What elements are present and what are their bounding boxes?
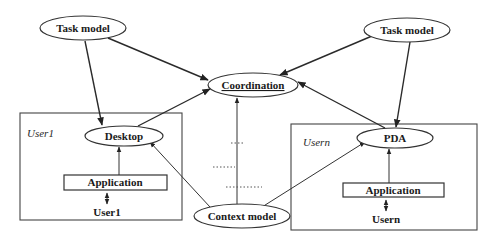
edge-taskright-pda — [396, 42, 410, 127]
coordination-node: Coordination — [208, 73, 298, 97]
task-model-left-label: Task model — [56, 22, 110, 34]
user1-label: User1 — [93, 206, 121, 218]
coordination-label: Coordination — [222, 79, 285, 91]
task-model-left-node: Task model — [40, 16, 126, 40]
context-model-node: Context model — [194, 204, 290, 228]
desktop-node: Desktop — [85, 126, 163, 146]
architecture-diagram: User1 Usern Task model Task model Coordi… — [0, 0, 496, 241]
application-right-label: Application — [365, 184, 420, 196]
context-model-label: Context model — [208, 210, 277, 222]
edge-taskright-coordination — [280, 36, 372, 75]
usern-label: Usern — [372, 213, 400, 225]
desktop-label: Desktop — [105, 130, 144, 142]
edge-pda-coordination — [298, 82, 385, 128]
usern-group-label: Usern — [303, 136, 330, 148]
edge-taskleft-coordination — [108, 38, 208, 80]
task-model-right-label: Task model — [380, 24, 434, 36]
edge-desktop-coordination — [138, 89, 210, 126]
edge-taskleft-desktop — [85, 41, 102, 125]
user1-group-label: User1 — [27, 127, 54, 139]
application-left-label: Application — [87, 176, 142, 188]
application-right-node: Application — [343, 183, 444, 197]
pda-node: PDA — [357, 128, 433, 148]
task-model-right-node: Task model — [364, 18, 450, 42]
application-left-node: Application — [64, 175, 167, 190]
pda-label: PDA — [384, 132, 407, 144]
